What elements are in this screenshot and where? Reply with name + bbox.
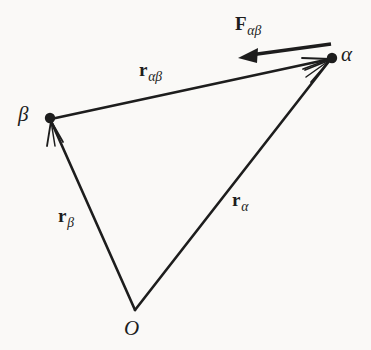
diagram-canvas xyxy=(0,0,371,350)
vector-force-alpha-beta xyxy=(238,44,331,63)
origin-label-o: O xyxy=(124,318,139,339)
vector-force-arrowhead xyxy=(238,48,258,63)
vector-label-r-alpha-base: r xyxy=(232,189,241,210)
particle-dot-alpha xyxy=(327,53,337,63)
particle-label-beta: β xyxy=(18,104,28,125)
vector-r-alpha xyxy=(135,60,330,310)
vector-force-shaft xyxy=(250,44,331,55)
vector-label-r-beta: rβ xyxy=(58,206,73,225)
vector-diagram-figure: α β O rα rβ rαβ Fαβ xyxy=(0,0,371,350)
vector-r-alpha-beta-barb-upper xyxy=(302,58,330,59)
particle-label-alpha: α xyxy=(341,44,352,65)
vector-label-r-alpha-beta-subscript: αβ xyxy=(148,70,162,84)
vector-label-r-beta-base: r xyxy=(58,205,67,226)
vector-label-r-beta-subscript: β xyxy=(67,216,74,230)
vector-label-r-alpha: rα xyxy=(232,190,248,209)
vector-r-alpha-beta xyxy=(51,58,330,119)
vector-label-r-alpha-beta: rαβ xyxy=(139,60,162,79)
vector-label-force-base: F xyxy=(235,13,247,34)
vector-r-alpha-beta-shaft xyxy=(51,59,330,119)
vector-r-alpha-shaft xyxy=(135,60,330,310)
vector-r-beta-barb-left xyxy=(47,121,51,146)
vector-label-r-alpha-subscript: α xyxy=(241,200,248,214)
vector-label-force-subscript: αβ xyxy=(247,24,261,38)
vector-label-force-alpha-beta: Fαβ xyxy=(235,14,261,33)
particle-dot-beta xyxy=(45,113,55,123)
vector-label-r-alpha-beta-base: r xyxy=(139,59,148,80)
